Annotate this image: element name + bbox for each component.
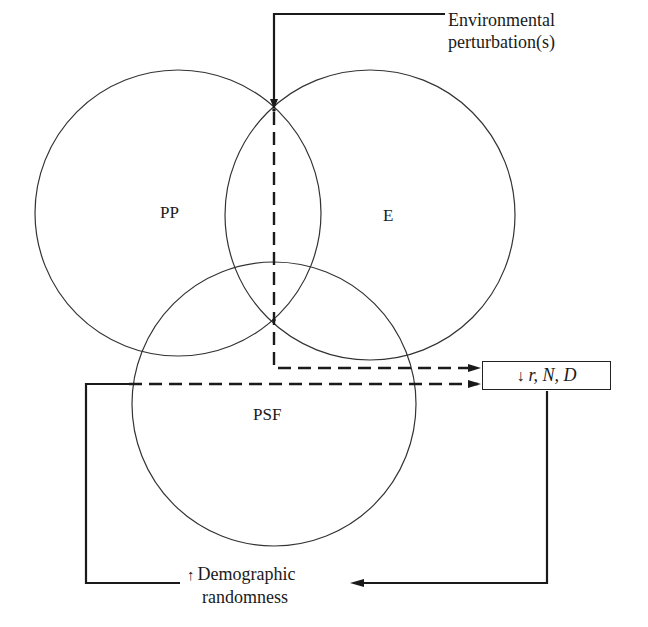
outcome-arrowhead-lower — [468, 380, 481, 388]
env-line2: perturbation(s) — [448, 31, 555, 53]
down-arrow-icon: ↓ — [516, 367, 524, 385]
label-environmental-perturbations: Environmental perturbation(s) — [448, 9, 555, 53]
environmental-perturbation-arrow — [274, 14, 445, 108]
diagram-canvas — [0, 0, 648, 627]
circle-e — [225, 70, 515, 360]
label-pp: PP — [160, 203, 179, 223]
demo-line2: randomness — [187, 586, 295, 608]
label-demographic-randomness: ↑Demographic randomness — [187, 563, 295, 608]
demographic-arrowhead — [350, 579, 364, 587]
label-psf: PSF — [253, 405, 281, 425]
outcome-box: ↓ r, N, D — [482, 361, 611, 390]
label-e: E — [383, 206, 393, 226]
intersection-top — [272, 108, 276, 112]
intersection-bottom — [272, 318, 276, 322]
demo-line1: Demographic — [198, 564, 296, 584]
up-arrow-icon: ↑ — [187, 567, 195, 583]
demographic-feedback-line — [86, 384, 180, 583]
dashed-path-to-outcome — [274, 112, 478, 368]
outcome-label: r, N, D — [528, 365, 576, 386]
outcome-return-line — [354, 391, 547, 583]
outcome-arrowhead-upper — [468, 364, 481, 372]
env-line1: Environmental — [448, 9, 555, 31]
